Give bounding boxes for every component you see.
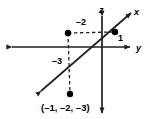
x-coordinate-tick-label: 1 [118,34,123,43]
z-coordinate-tick-label: –3 [52,57,62,66]
point-in-xy-plane [65,30,71,36]
point-caption: (–1, –2, –3) [41,103,90,113]
x-axis-label: x [134,8,139,17]
coordinate-diagram: x y z 1 –2 –3 (–1, –2, –3) [0,0,150,119]
plotted-point [67,91,73,97]
y-coordinate-tick-label: –2 [76,18,86,27]
vertical-projection-line [68,33,70,93]
z-axis-label: z [99,6,104,15]
y-axis-label: y [136,44,141,53]
